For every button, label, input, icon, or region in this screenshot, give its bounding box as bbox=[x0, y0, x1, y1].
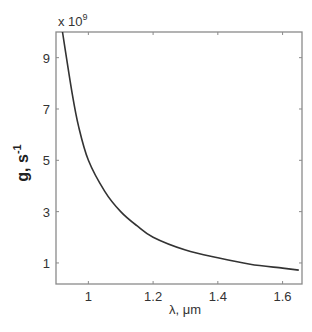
chart: 11.21.41.6 13579 x 109 λ, μm g, s-1 bbox=[0, 0, 312, 332]
y-tick-label: 7 bbox=[43, 102, 50, 117]
plot-frame bbox=[56, 32, 302, 284]
x-tick-label: 1.6 bbox=[274, 289, 292, 304]
y-multiplier: x 109 bbox=[58, 12, 88, 29]
y-tick-label: 1 bbox=[43, 256, 50, 271]
x-tick-label: 1 bbox=[85, 289, 92, 304]
y-tick-label: 9 bbox=[43, 51, 50, 66]
y-tick-label: 3 bbox=[43, 205, 50, 220]
plot-area: 11.21.41.6 13579 bbox=[43, 32, 302, 304]
x-tick-label: 1.2 bbox=[144, 289, 162, 304]
y-tick-label: 5 bbox=[43, 153, 50, 168]
x-tick-label: 1.4 bbox=[209, 289, 227, 304]
x-axis-label: λ, μm bbox=[169, 302, 201, 317]
y-axis-label: g, s-1 bbox=[11, 144, 31, 181]
